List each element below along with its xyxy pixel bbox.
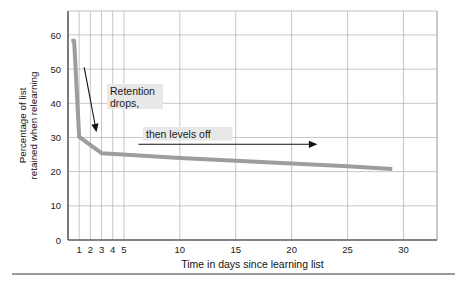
forgetting-curve-chart: 0102030405060 123451015202530 Retentiond… [0,0,467,288]
x-axis-title: Time in days since learning list [181,258,324,270]
y-tick-label: 0 [56,235,61,246]
y-tick-label: 50 [50,64,61,75]
x-axis-ticklabels: 123451015202530 [77,244,409,255]
annotation-arrow-head [309,141,318,148]
x-tick-label: 5 [121,244,126,255]
y-tick-label: 30 [50,132,61,143]
y-axis-ticklabels: 0102030405060 [50,30,61,246]
x-tick-label: 20 [286,244,297,255]
y-axis-title-line: retained when relearning [28,72,39,180]
plot-gridlines [68,11,437,240]
y-axis-title-line: Percentage of list [17,87,28,163]
x-tick-label: 10 [175,244,186,255]
annotation-arrow-shaft [84,67,95,124]
annotation-label-text: Retention [110,85,155,97]
annotation-labels: Retentiondrops,then levels off [107,84,232,141]
y-tick-label: 40 [50,98,61,109]
x-tick-label: 1 [77,244,82,255]
y-tick-label: 10 [50,200,61,211]
x-tick-label: 30 [398,244,409,255]
x-tick-label: 3 [99,244,104,255]
x-tick-label: 4 [110,244,115,255]
y-axis-title: Percentage of listretained when relearni… [17,72,39,180]
annotation-label-text: drops, [110,97,139,109]
x-axis-title-text: Time in days since learning list [181,258,324,270]
x-tick-label: 15 [230,244,241,255]
x-tick-label: 25 [342,244,353,255]
y-tick-label: 60 [50,30,61,41]
y-tick-label: 20 [50,166,61,177]
annotation-label-text: then levels off [146,128,211,140]
x-tick-label: 2 [88,244,93,255]
annotation-arrow-head [91,123,98,132]
